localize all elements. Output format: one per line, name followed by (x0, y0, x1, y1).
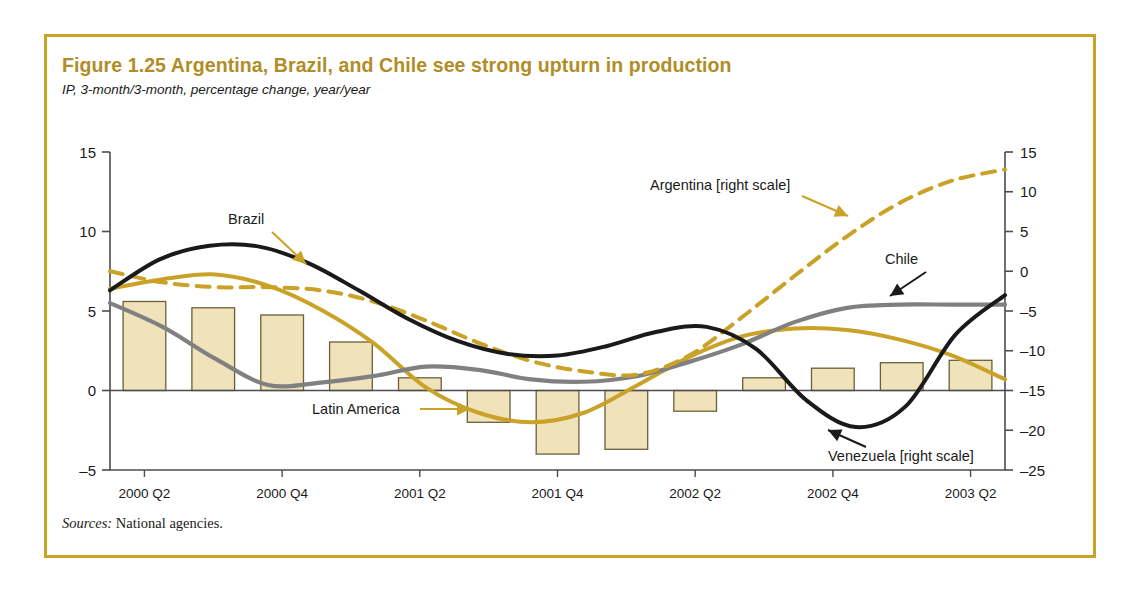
annotation-arrow-brazil (272, 232, 306, 264)
x-axis-tick-label: 2002 Q2 (669, 486, 721, 501)
series-line-argentina (110, 169, 1005, 375)
right-axis-tick-label: 5 (1020, 223, 1028, 240)
annotation-label-chile: Chile (885, 251, 918, 267)
right-axis-tick-label: 0 (1020, 263, 1028, 280)
right-axis-tick-label: 10 (1020, 183, 1037, 200)
left-axis-tick-label: –5 (79, 462, 96, 479)
x-axis-tick-label: 2000 Q4 (256, 486, 308, 501)
right-axis-tick-label: –10 (1020, 342, 1045, 359)
bar (123, 302, 166, 391)
bar (812, 368, 855, 390)
bar (674, 391, 717, 412)
x-axis-tick-label: 2001 Q2 (394, 486, 446, 501)
annotation-arrow-venezuela (828, 429, 866, 447)
left-axis-tick-label: 10 (79, 223, 96, 240)
left-axis-tick-label: 15 (79, 144, 96, 161)
bar (330, 342, 373, 391)
annotation-arrow-latin-america (420, 403, 470, 416)
annotation-label-brazil: Brazil (228, 211, 264, 227)
bar (261, 315, 304, 391)
annotation-arrow-chile (890, 272, 926, 296)
x-axis-tick-label: 2001 Q4 (532, 486, 584, 501)
bar (743, 378, 786, 391)
chart-plot-area: 151050–5151050–5–10–15–20–252000 Q22000 … (0, 0, 1141, 600)
x-axis-tick-label: 2000 Q2 (119, 486, 171, 501)
annotation-label-latin-america: Latin America (312, 401, 401, 417)
right-axis-tick-label: –25 (1020, 462, 1045, 479)
right-axis-tick-label: –15 (1020, 382, 1045, 399)
right-axis-tick-label: –5 (1020, 303, 1037, 320)
chart-svg: 151050–5151050–5–10–15–20–252000 Q22000 … (0, 0, 1141, 600)
left-axis-tick-label: 5 (88, 303, 96, 320)
bar (880, 363, 923, 391)
left-axis-tick-label: 0 (88, 382, 96, 399)
right-axis-tick-label: 15 (1020, 144, 1037, 161)
x-axis-tick-label: 2002 Q4 (807, 486, 859, 501)
annotation-label-argentina: Argentina [right scale] (650, 177, 790, 193)
figure-page: Figure 1.25 Argentina, Brazil, and Chile… (0, 0, 1141, 600)
x-axis-tick-label: 2003 Q2 (945, 486, 997, 501)
series-line-chile (110, 303, 1005, 386)
chart-series (110, 169, 1005, 427)
annotation-arrow-argentina (802, 196, 848, 217)
annotation-label-venezuela: Venezuela [right scale] (828, 448, 974, 464)
right-axis-tick-label: –20 (1020, 422, 1045, 439)
